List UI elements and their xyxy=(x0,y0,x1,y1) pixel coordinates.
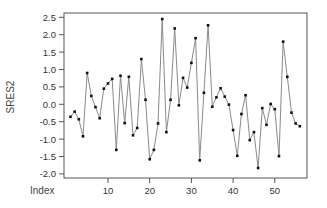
data-point xyxy=(115,149,118,152)
data-point xyxy=(140,58,143,61)
data-point xyxy=(211,105,214,108)
x-axis: 1020304050 xyxy=(103,178,280,196)
data-point xyxy=(278,155,281,158)
y-tick-label: 0.0 xyxy=(43,99,56,110)
series-line xyxy=(71,19,300,168)
data-point xyxy=(194,37,197,40)
data-point xyxy=(294,122,297,125)
data-point xyxy=(169,98,172,101)
data-point xyxy=(78,118,81,121)
data-point xyxy=(98,117,101,120)
data-point xyxy=(274,108,277,111)
data-point xyxy=(299,125,302,128)
x-tick-label: 40 xyxy=(228,185,239,196)
data-point xyxy=(86,72,89,75)
data-point xyxy=(73,110,76,113)
data-point xyxy=(165,131,168,134)
data-point xyxy=(261,107,264,110)
data-point xyxy=(269,103,272,106)
data-point xyxy=(103,87,106,90)
data-point xyxy=(128,76,131,79)
data-point xyxy=(257,167,260,170)
data-point xyxy=(190,62,193,65)
data-point xyxy=(94,106,97,109)
data-point xyxy=(244,94,247,97)
y-tick-label: 1.0 xyxy=(43,64,56,75)
data-point xyxy=(148,158,151,161)
x-tick-label: 50 xyxy=(270,185,281,196)
y-tick-label: -0.5 xyxy=(40,116,56,127)
plot-frame xyxy=(64,13,307,178)
y-axis-title: SRES2 xyxy=(5,80,16,113)
y-tick-label: -2.0 xyxy=(40,168,56,179)
data-point xyxy=(69,116,72,119)
data-point xyxy=(265,124,268,127)
data-point xyxy=(186,86,189,89)
data-point xyxy=(286,76,289,79)
data-point xyxy=(240,113,243,116)
data-point xyxy=(123,122,126,125)
y-tick-label: 2.0 xyxy=(43,29,56,40)
data-point xyxy=(111,78,114,81)
data-markers xyxy=(69,18,301,170)
y-tick-label: 2.5 xyxy=(43,12,56,23)
y-axis: -2.0-1.5-1.0-0.50.00.51.01.52.02.5 xyxy=(40,12,64,180)
y-tick-label: -1.5 xyxy=(40,151,56,162)
x-tick-label: 20 xyxy=(144,185,155,196)
data-point xyxy=(132,134,135,137)
data-point xyxy=(90,95,93,98)
data-point xyxy=(253,131,256,134)
y-tick-label: -1.0 xyxy=(40,134,56,145)
data-point xyxy=(248,139,251,142)
x-tick-label: 10 xyxy=(103,185,114,196)
data-point xyxy=(223,95,226,98)
y-tick-label: 0.5 xyxy=(43,81,56,92)
data-point xyxy=(136,127,139,130)
time-series-chart: -2.0-1.5-1.0-0.50.00.51.01.52.02.5 10203… xyxy=(0,0,327,208)
data-point xyxy=(215,96,218,99)
data-point xyxy=(153,149,156,152)
data-point xyxy=(282,40,285,43)
data-point xyxy=(107,82,110,85)
data-point xyxy=(203,92,206,95)
y-tick-label: 1.5 xyxy=(43,47,56,58)
data-point xyxy=(228,103,231,106)
data-point xyxy=(144,98,147,101)
data-point xyxy=(207,24,210,27)
data-point xyxy=(182,77,185,80)
data-point xyxy=(119,74,122,77)
data-point xyxy=(173,27,176,30)
data-point xyxy=(178,104,181,107)
x-tick-label: 30 xyxy=(186,185,197,196)
data-point xyxy=(236,155,239,158)
data-point xyxy=(290,111,293,114)
data-point xyxy=(232,129,235,132)
data-point xyxy=(161,18,164,21)
x-axis-title: Index xyxy=(30,185,54,196)
data-point xyxy=(198,159,201,162)
data-point xyxy=(157,122,160,125)
data-point xyxy=(219,87,222,90)
data-point xyxy=(82,135,85,138)
